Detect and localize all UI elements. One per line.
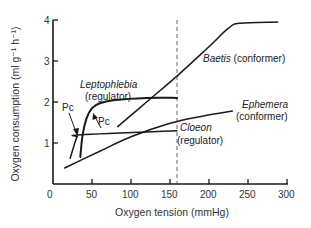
y-ticks: 4 3 2 1 — [44, 15, 58, 149]
leptophlebia-curve — [80, 98, 177, 157]
x-axis-title: Oxygen tension (mmHg) — [115, 206, 229, 218]
baetis-label: Baetis (conformer) — [203, 53, 285, 64]
pc-label-cloeon: Pc — [62, 102, 74, 113]
x-tick-label: 100 — [122, 189, 139, 200]
cloeon-curve — [70, 131, 177, 159]
oxygen-consumption-chart: 4 3 2 1 0 50 100 150 200 250 300 Oxygen … — [0, 0, 311, 228]
y-tick-label: 4 — [44, 15, 50, 26]
cloeon-note: (regulator) — [177, 135, 223, 146]
baetis-name: Baetis — [203, 53, 231, 64]
pc-arrow-cloeon — [69, 113, 79, 136]
x-tick-label: 50 — [86, 189, 98, 200]
y-tick-label: 1 — [44, 138, 50, 149]
x-ticks: 0 50 100 150 200 250 300 — [47, 179, 295, 200]
x-tick-label: 150 — [161, 189, 178, 200]
x-tick-label: 200 — [200, 189, 217, 200]
ephemera-note: (conformer) — [236, 111, 288, 122]
y-axis-title: Oxygen consumption (ml g⁻¹ h⁻¹) — [9, 26, 21, 181]
ephemera-name: Ephemera — [242, 99, 289, 110]
y-tick-label: 2 — [44, 97, 50, 108]
y-tick-label: 3 — [44, 56, 50, 67]
leptophlebia-name: Leptophlebia — [80, 79, 138, 90]
x-tick-label-origin: 0 — [47, 189, 53, 200]
x-tick-label: 300 — [278, 189, 295, 200]
leptophlebia-note: (regulator) — [85, 91, 131, 102]
baetis-note: (conformer) — [231, 53, 285, 64]
pc-label-leptophlebia: Pc — [98, 116, 110, 127]
cloeon-name: Cloeon — [180, 122, 212, 133]
x-tick-label: 250 — [239, 189, 256, 200]
